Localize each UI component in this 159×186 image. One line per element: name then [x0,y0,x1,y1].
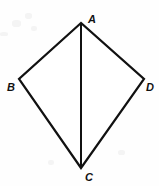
vertex-label-d: D [146,82,154,93]
vertex-label-b: B [7,82,15,93]
kite-drawing [0,0,159,186]
vertex-label-a: A [88,14,96,25]
geometry-figure: A B C D [0,0,159,186]
vertex-label-c: C [85,172,93,183]
